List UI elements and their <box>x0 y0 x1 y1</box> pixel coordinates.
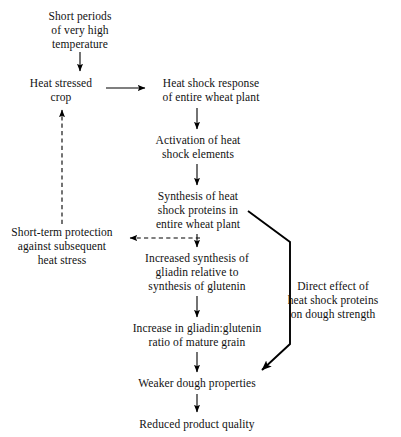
node-line: gliadin relative to <box>145 265 249 279</box>
node-line: synthesis of glutenin <box>145 279 249 293</box>
node-line: shock elements <box>156 147 241 161</box>
node-line: temperature <box>49 37 112 51</box>
node-short-periods: Short periods of very high temperature <box>49 9 112 51</box>
node-line: heat shock proteins <box>288 293 379 307</box>
node-reduced-product-quality: Reduced product quality <box>139 417 254 431</box>
node-activation-of-heat-shock-elements: Activation of heat shock elements <box>156 133 241 161</box>
node-line: heat stress <box>11 253 112 267</box>
node-heat-stressed-crop: Heat stressed crop <box>30 76 92 104</box>
node-line: Heat shock response <box>163 76 260 90</box>
node-short-term-protection: Short-term protection against subsequent… <box>11 225 112 267</box>
node-line: Weaker dough properties <box>138 376 256 390</box>
node-line: ratio of mature grain <box>133 335 262 349</box>
node-line: Short periods <box>49 9 112 23</box>
node-line: of entire wheat plant <box>163 90 260 104</box>
node-heat-shock-response: Heat shock response of entire wheat plan… <box>163 76 260 104</box>
node-line: shock proteins in <box>156 203 240 217</box>
node-line: crop <box>30 90 92 104</box>
node-weaker-dough-properties: Weaker dough properties <box>138 376 256 390</box>
node-line: Direct effect of <box>288 279 379 293</box>
node-line: on dough strength <box>288 307 379 321</box>
node-line: against subsequent <box>11 239 112 253</box>
node-line: of very high <box>49 23 112 37</box>
node-line: Activation of heat <box>156 133 241 147</box>
node-increase-in-gliadin-glutenin-ratio: Increase in gliadin:glutenin ratio of ma… <box>133 321 262 349</box>
node-line: Synthesis of heat <box>156 189 240 203</box>
flowchart-canvas: Short periods of very high temperature H… <box>0 0 401 437</box>
node-increased-synthesis-of-gliadin: Increased synthesis of gliadin relative … <box>145 251 249 293</box>
node-synthesis-of-heat-shock-proteins: Synthesis of heat shock proteins in enti… <box>156 189 240 231</box>
node-line: Increase in gliadin:glutenin <box>133 321 262 335</box>
node-line: entire wheat plant <box>156 217 240 231</box>
node-line: Increased synthesis of <box>145 251 249 265</box>
node-direct-effect-of-heat-shock-proteins: Direct effect of heat shock proteins on … <box>288 279 379 321</box>
node-line: Heat stressed <box>30 76 92 90</box>
node-line: Reduced product quality <box>139 417 254 431</box>
node-line: Short-term protection <box>11 225 112 239</box>
